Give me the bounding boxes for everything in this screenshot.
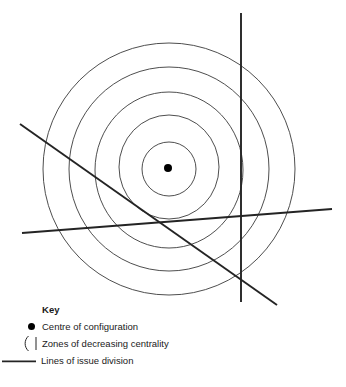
key-item-zones-label: Zones of decreasing centrality <box>42 337 169 351</box>
key-title: Key <box>42 304 60 316</box>
key-item-centre-label: Centre of configuration <box>42 320 138 334</box>
horizontal-issue-line <box>22 209 332 233</box>
straight-line-icon <box>2 360 36 362</box>
key-item-centre: Centre of configuration <box>0 319 346 335</box>
centre-of-configuration-dot <box>164 164 172 172</box>
key-item-lines: Lines of issue division <box>0 353 346 369</box>
key-item-zones: Zones of decreasing centrality <box>0 336 346 352</box>
filled-dot-icon <box>28 323 35 330</box>
key-legend: Key Centre of configuration Zones of dec… <box>0 304 346 387</box>
configuration-diagram: Key Centre of configuration Zones of dec… <box>0 0 346 387</box>
arc-pair-icon <box>22 335 42 352</box>
issue-division-lines-group <box>20 13 332 305</box>
key-item-lines-label: Lines of issue division <box>41 354 133 368</box>
